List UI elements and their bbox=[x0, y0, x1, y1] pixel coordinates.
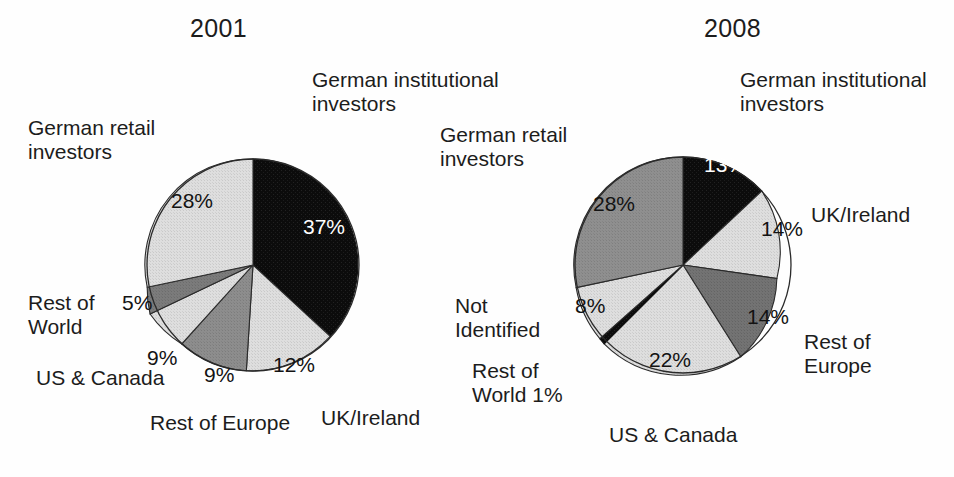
value-not-identified-2008: 8% bbox=[575, 294, 605, 318]
label-not-identified-2008: Not Identified bbox=[455, 294, 540, 341]
label-line-2: World 1% bbox=[472, 383, 563, 406]
value-us-canada-2008: 22% bbox=[649, 348, 691, 372]
label-line-2: Identified bbox=[455, 318, 540, 341]
value-german-institutional-2001: 37% bbox=[303, 215, 345, 239]
label-line-2: Europe bbox=[804, 354, 872, 377]
label-rest-of-europe-2001: Rest of Europe bbox=[150, 411, 290, 435]
label-uk-ireland-2008: UK/Ireland bbox=[811, 203, 910, 227]
value-uk-ireland-2001: 12% bbox=[273, 353, 315, 377]
value-german-retail-2008: 28% bbox=[593, 192, 635, 216]
value-german-institutional-2008: 13% bbox=[704, 153, 746, 177]
label-german-institutional-2008: German institutional investors bbox=[740, 68, 927, 115]
label-rest-of-world-2008: Rest of World 1% bbox=[472, 359, 563, 406]
label-us-canada-2001: US & Canada bbox=[36, 366, 164, 390]
label-rest-of-world-2001: Rest of World bbox=[28, 291, 95, 338]
pie-chart-figure: 2001 bbox=[0, 0, 954, 477]
value-rest-of-europe-2008-real: 14% bbox=[747, 305, 789, 329]
value-rest-of-europe-2001: 9% bbox=[204, 363, 234, 387]
label-line-1: German institutional bbox=[740, 68, 927, 91]
label-line-2: investors bbox=[312, 92, 396, 115]
label-line-1: German retail bbox=[440, 123, 567, 146]
label-line-1: Rest of bbox=[804, 330, 871, 353]
label-line-1: Not bbox=[455, 294, 488, 317]
label-line-2: investors bbox=[740, 92, 824, 115]
label-line-2: World bbox=[28, 315, 82, 338]
label-line-1: German institutional bbox=[312, 68, 499, 91]
value-uk-ireland-2008: 14% bbox=[761, 217, 803, 241]
label-line-1: German retail bbox=[28, 116, 155, 139]
value-rest-of-world-2001: 5% bbox=[122, 291, 152, 315]
value-german-retail-2001: 28% bbox=[171, 189, 213, 213]
label-rest-of-europe-2008: Rest of Europe bbox=[804, 330, 872, 377]
label-german-retail-2008: German retail investors bbox=[440, 123, 567, 170]
label-german-retail-2001: German retail investors bbox=[28, 116, 155, 163]
label-line-1: Rest of bbox=[472, 359, 539, 382]
label-us-canada-2008: US & Canada bbox=[609, 423, 737, 447]
chart-panel-2008: 2008 bbox=[477, 0, 954, 477]
label-line-2: investors bbox=[440, 147, 524, 170]
pie-slice-german-retail[interactable] bbox=[145, 159, 253, 287]
label-uk-ireland-2001: UK/Ireland bbox=[321, 406, 420, 430]
chart-panel-2001: 2001 bbox=[0, 0, 477, 477]
pie-slice-german-retail[interactable] bbox=[574, 157, 683, 288]
label-line-1: Rest of bbox=[28, 291, 95, 314]
label-german-institutional-2001: German institutional investors bbox=[312, 68, 499, 115]
label-line-2: investors bbox=[28, 140, 112, 163]
